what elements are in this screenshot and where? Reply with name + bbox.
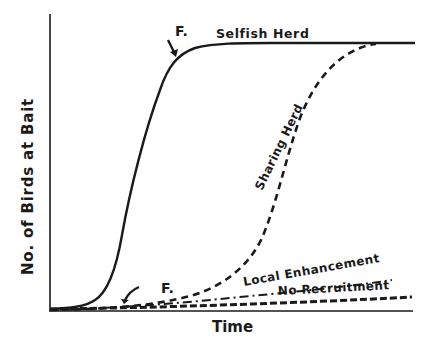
x-axis-title: Time bbox=[212, 318, 253, 336]
y-axis-title: No. of Birds at Bait bbox=[19, 98, 37, 275]
chart: F. F. Selfish Herd Sharing Herd Local En… bbox=[0, 0, 435, 342]
arrow-icon bbox=[125, 287, 139, 300]
annotation-f-top: F. bbox=[175, 23, 188, 39]
series-no-recruitment bbox=[50, 297, 412, 309]
label-sharing-herd: Sharing Herd bbox=[252, 102, 306, 193]
label-no-recruitment: No Recruitment bbox=[277, 278, 389, 298]
series-selfish-herd bbox=[50, 43, 415, 309]
label-selfish-herd: Selfish Herd bbox=[216, 26, 309, 41]
arrowhead-icon bbox=[121, 299, 129, 304]
annotation-f-bottom: F. bbox=[161, 280, 174, 296]
